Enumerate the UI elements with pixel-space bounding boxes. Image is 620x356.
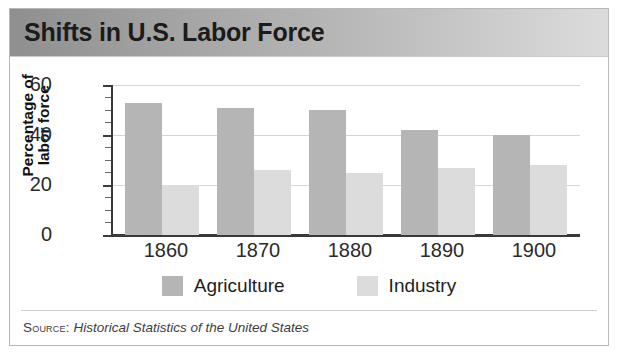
source-divider [21,310,597,311]
legend-label-industry: Industry [389,275,457,297]
y-tick-label-20: 20 [10,173,52,196]
x-tick-label-1900: 1900 [486,239,582,262]
source-text: Historical Statistics of the United Stat… [73,320,309,335]
y-tick-label-0: 0 [10,223,52,246]
y-tick-label-60: 60 [10,73,52,96]
plot-area: Percentage of labor force 60 40 20 0 186… [10,57,608,302]
x-tick-label-1860: 1860 [118,239,214,262]
x-tick-label-1890: 1890 [394,239,490,262]
bar-industry-1860 [162,185,199,235]
bar-industry-1880 [346,173,383,236]
bar-agriculture-1870 [217,108,254,236]
bar-group-1880 [309,85,383,235]
legend-item-agriculture: Agriculture [162,275,285,297]
legend-swatch-industry-icon [357,276,378,296]
bar-agriculture-1900 [493,135,530,235]
bar-agriculture-1890 [401,130,438,235]
bar-agriculture-1860 [125,103,162,236]
bars-layer [113,85,580,235]
bar-group-1870 [217,85,291,235]
page-title: Shifts in U.S. Labor Force [24,18,324,47]
y-tick-label-40: 40 [10,123,52,146]
bar-group-1860 [125,85,199,235]
x-tick-label-1880: 1880 [302,239,398,262]
bar-industry-1870 [254,170,291,235]
legend-swatch-agriculture-icon [162,276,183,296]
bar-group-1890 [401,85,475,235]
source-label: Source: [23,320,70,335]
bar-industry-1890 [438,168,475,236]
bar-agriculture-1880 [309,110,346,235]
bar-industry-1900 [530,165,567,235]
chart-figure: Shifts in U.S. Labor Force Percentage of… [9,8,609,346]
legend-label-agriculture: Agriculture [194,275,285,297]
source-line: Source: Historical Statistics of the Uni… [23,320,309,335]
bar-group-1900 [493,85,567,235]
legend-item-industry: Industry [357,275,457,297]
x-tick-label-1870: 1870 [210,239,306,262]
chart-title-bar: Shifts in U.S. Labor Force [10,9,608,57]
chart-legend: Agriculture Industry [10,275,608,297]
